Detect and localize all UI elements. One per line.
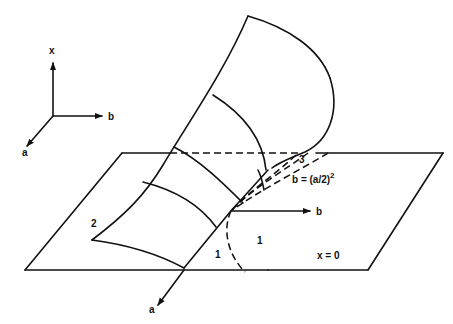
region-labels: 2 1 1 3 x = 0 b = (a/2)2 xyxy=(91,154,340,261)
legend-x-label: x xyxy=(49,45,55,56)
region-1-right-label: 1 xyxy=(257,235,263,246)
main-axes: b a xyxy=(149,206,322,315)
legend-b-label: b xyxy=(108,111,114,122)
cusp-label-base: b = (a/2) xyxy=(292,174,330,185)
svg-text:b = (a/2)2: b = (a/2)2 xyxy=(292,171,335,185)
region-2-label: 2 xyxy=(91,218,97,229)
region-3-label: 3 xyxy=(299,154,305,165)
folded-surface xyxy=(92,16,334,268)
region-1-left-label: 1 xyxy=(215,249,221,260)
cusp-curve-label: b = (a/2)2 xyxy=(292,171,335,185)
legend-a-label: a xyxy=(22,147,28,158)
cusp-label-exponent: 2 xyxy=(330,171,335,180)
main-a-label: a xyxy=(149,304,155,315)
main-b-label: b xyxy=(316,206,322,217)
main-a-axis xyxy=(158,270,184,305)
axes-legend: x b a xyxy=(22,45,114,158)
plane-label: x = 0 xyxy=(317,250,340,261)
cusp-curves xyxy=(227,153,328,272)
cusp-catastrophe-diagram: x b a xyxy=(0,0,453,324)
legend-a-axis xyxy=(27,116,53,146)
